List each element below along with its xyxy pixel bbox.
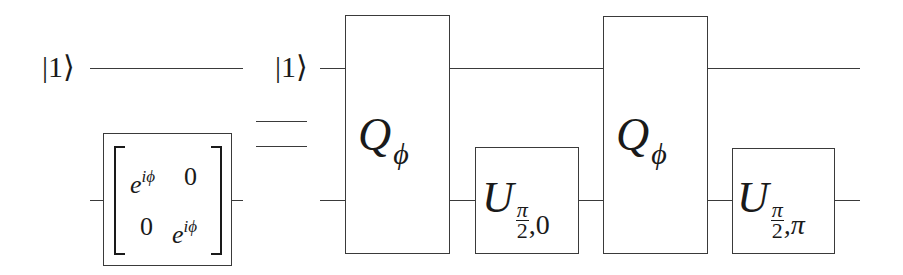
u-gate-2-label: Uπ2,π: [737, 176, 805, 247]
lhs-bottom-wire-in: [90, 200, 104, 201]
u1-pi-over-2: π2: [516, 200, 529, 241]
u-gate-2: Uπ2,π: [732, 148, 835, 254]
matrix-cell-01: 0: [184, 164, 197, 190]
q2-symbol: Q: [616, 109, 649, 160]
matrix-cell-00: eiϕ: [130, 164, 155, 198]
matrix-cell-11-exp: iϕ: [184, 217, 198, 236]
rhs-bottom-wire-3: [707, 200, 733, 201]
u1-sub-rest: ,0: [529, 209, 550, 240]
u1-symbol: U: [482, 173, 514, 222]
u2-pi-over-2: π2: [771, 200, 784, 241]
matrix-right-bracket: [211, 146, 222, 255]
u2-symbol: U: [737, 173, 769, 222]
q-phi-gate-2: Qϕ: [603, 16, 708, 254]
q2-subscript: ϕ: [651, 137, 667, 170]
lhs-phase-matrix-gate: eiϕ 0 0 eiϕ: [103, 133, 232, 266]
q1-symbol: Q: [358, 109, 391, 160]
rhs-bottom-wire-1: [449, 200, 476, 201]
u2-sub-rest: ,π: [784, 209, 805, 240]
q-phi-gate-2-label: Qϕ: [616, 112, 667, 177]
matrix-left-bracket: [114, 146, 125, 255]
lhs-input-ket: |1⟩: [42, 52, 75, 82]
matrix-cell-00-base: e: [130, 170, 142, 199]
equals-sign-bottom-bar: [256, 146, 307, 147]
q1-subscript: ϕ: [393, 137, 409, 170]
rhs-input-ket: |1⟩: [275, 52, 308, 82]
matrix-cell-00-exp: iϕ: [142, 167, 156, 186]
rhs-bottom-wire-0: [320, 200, 346, 201]
rhs-top-wire-1: [449, 68, 604, 69]
u1-frac-den: 2: [516, 221, 529, 241]
u-gate-1: Uπ2,0: [475, 147, 579, 254]
lhs-top-wire: [90, 68, 243, 69]
matrix-cell-11: eiϕ: [172, 214, 197, 248]
rhs-top-wire-2: [707, 68, 860, 69]
u2-frac-den: 2: [771, 221, 784, 241]
equals-sign-top-bar: [256, 121, 307, 122]
matrix-cell-11-base: e: [172, 220, 184, 249]
matrix-cell-10: 0: [140, 214, 153, 240]
rhs-top-wire-0: [320, 68, 346, 69]
lhs-bottom-wire-out: [231, 200, 243, 201]
q-phi-gate-1-label: Qϕ: [358, 112, 409, 177]
rhs-bottom-wire-2: [578, 200, 604, 201]
u-gate-1-label: Uπ2,0: [482, 176, 550, 247]
rhs-bottom-wire-4: [834, 200, 860, 201]
q-phi-gate-1: Qϕ: [345, 15, 450, 254]
